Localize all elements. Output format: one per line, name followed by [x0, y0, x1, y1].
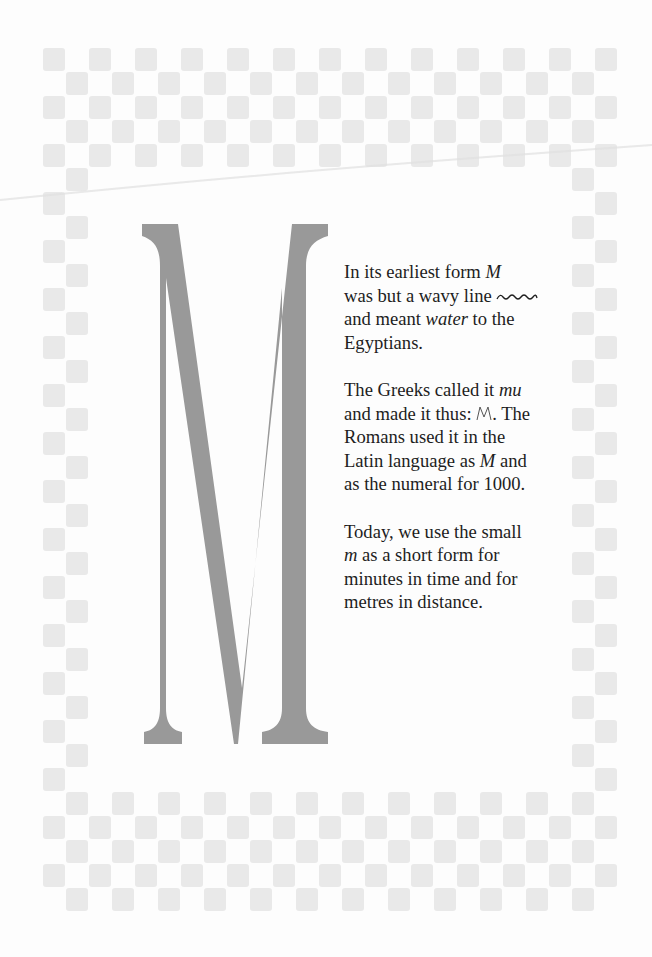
border-square — [43, 720, 65, 743]
border-square — [342, 888, 364, 911]
border-square — [89, 864, 111, 887]
border-square — [526, 792, 548, 815]
text-span: Romans used it in the — [344, 426, 505, 447]
border-square — [572, 888, 594, 911]
border-square — [549, 816, 571, 839]
border-square — [595, 528, 617, 551]
text-span: The Greeks called it — [344, 379, 499, 400]
border-square — [572, 216, 594, 239]
border-square — [319, 144, 341, 167]
border-square — [43, 528, 65, 551]
text-span: Egyptians. — [344, 332, 423, 353]
border-square — [411, 96, 433, 119]
text-span: and made it thus: — [344, 403, 472, 424]
border-square — [595, 432, 617, 455]
border-square — [595, 768, 617, 791]
border-square — [204, 120, 226, 143]
border-square — [112, 840, 134, 863]
border-square — [342, 792, 364, 815]
border-square — [572, 312, 594, 335]
border-square — [595, 96, 617, 119]
border-square — [572, 792, 594, 815]
border-square — [227, 816, 249, 839]
border-square — [43, 96, 65, 119]
border-square — [135, 144, 157, 167]
border-square — [66, 792, 88, 815]
border-square — [204, 888, 226, 911]
border-square — [158, 792, 180, 815]
border-square — [112, 888, 134, 911]
text-span: Today, we use the small — [344, 521, 522, 542]
border-square — [43, 336, 65, 359]
border-square — [365, 144, 387, 167]
wavy-line-icon — [496, 292, 538, 302]
border-square — [43, 192, 65, 215]
border-square — [66, 216, 88, 239]
border-square — [204, 72, 226, 95]
border-square — [319, 816, 341, 839]
border-square — [227, 864, 249, 887]
border-square — [66, 504, 88, 527]
border-square — [66, 552, 88, 575]
greek-mu-glyph-icon — [476, 405, 492, 421]
border-square — [411, 864, 433, 887]
border-square — [158, 72, 180, 95]
border-square — [388, 120, 410, 143]
border-square — [273, 96, 295, 119]
border-square — [595, 624, 617, 647]
border-square — [388, 72, 410, 95]
border-square — [549, 144, 571, 167]
border-square — [43, 432, 65, 455]
border-square — [43, 240, 65, 263]
border-square — [480, 120, 502, 143]
border-square — [457, 816, 479, 839]
border-square — [112, 792, 134, 815]
border-square — [204, 792, 226, 815]
border-square — [365, 864, 387, 887]
border-square — [296, 888, 318, 911]
border-square — [434, 120, 456, 143]
border-square — [526, 72, 548, 95]
border-square — [503, 864, 525, 887]
border-square — [526, 840, 548, 863]
border-square — [503, 48, 525, 71]
border-square — [158, 840, 180, 863]
border-square — [66, 888, 88, 911]
border-square — [434, 792, 456, 815]
text-span: Latin language as — [344, 450, 480, 471]
border-square — [227, 48, 249, 71]
paragraph-greek-roman: The Greeks called it mu and made it thus… — [344, 378, 564, 496]
text-span: was but a wavy line — [344, 285, 492, 306]
text-span: as the numeral for 1000. — [344, 473, 525, 494]
border-square — [273, 48, 295, 71]
border-square — [319, 864, 341, 887]
body-text: In its earliest form M was but a wavy li… — [344, 260, 564, 638]
border-square — [572, 552, 594, 575]
border-square — [66, 456, 88, 479]
decorative-initial-m — [120, 218, 350, 750]
border-square — [227, 96, 249, 119]
border-square — [43, 288, 65, 311]
border-square — [549, 864, 571, 887]
border-square — [572, 504, 594, 527]
border-square — [503, 144, 525, 167]
border-square — [572, 744, 594, 767]
text-span: and meant — [344, 308, 426, 329]
border-square — [135, 48, 157, 71]
border-square — [89, 816, 111, 839]
border-square — [388, 888, 410, 911]
border-square — [66, 120, 88, 143]
border-square — [365, 48, 387, 71]
border-square — [66, 744, 88, 767]
border-square — [43, 480, 65, 503]
border-square — [572, 72, 594, 95]
border-square — [66, 168, 88, 191]
border-square — [480, 72, 502, 95]
paragraph-today: Today, we use the small m as a short for… — [344, 520, 564, 614]
text-span: . The — [492, 403, 530, 424]
border-square — [89, 144, 111, 167]
border-square — [595, 720, 617, 743]
border-square — [572, 648, 594, 671]
border-square — [526, 888, 548, 911]
border-square — [411, 48, 433, 71]
